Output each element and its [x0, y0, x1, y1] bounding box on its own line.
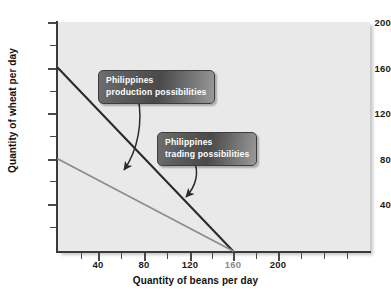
trading-callout-line1: Philippines: [165, 137, 249, 149]
trading-possibilities-callout[interactable]: Philippines trading possibilities: [157, 132, 257, 166]
trading-callout-line2: trading possibilities: [165, 149, 249, 161]
production-callout-line1: Philippines: [106, 75, 207, 87]
ppf-chart: 200 160 120 80 40 40 80 120 160 200 Quan…: [0, 0, 391, 299]
production-callout-leader-arrow: [124, 97, 140, 170]
trading-possibilities-line: [58, 159, 233, 251]
production-callout-line2: production possibilities: [106, 87, 207, 99]
production-possibilities-callout[interactable]: Philippines production possibilities: [98, 70, 215, 104]
